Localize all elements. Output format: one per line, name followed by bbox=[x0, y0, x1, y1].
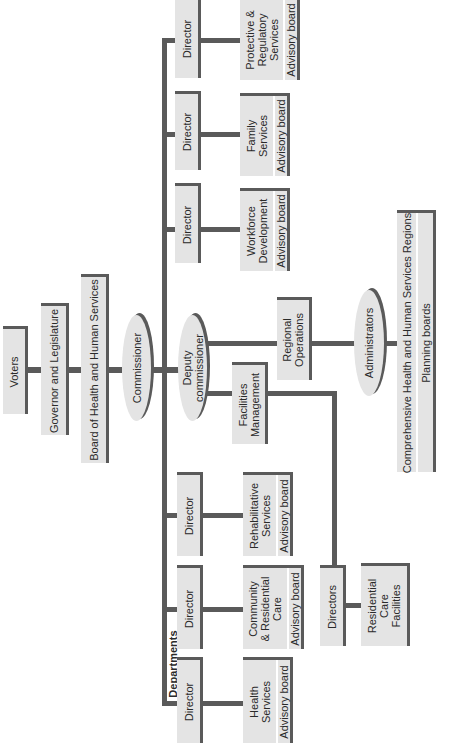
regions-label: Comprehensive Health and Human Services … bbox=[401, 212, 413, 472]
connector-dir-dept-4 bbox=[202, 513, 243, 518]
dept-workforce: WorkforceDevelopment Advisory board bbox=[240, 188, 290, 271]
connector-dir-dept-3 bbox=[200, 227, 240, 232]
governor-label: Governor and Legislature bbox=[48, 308, 60, 432]
planning-boards-strip: Planning boards bbox=[416, 213, 433, 472]
deputy-label: Deputy commissioner bbox=[181, 332, 205, 404]
connector-directors-residential bbox=[344, 603, 362, 608]
board-label: Board of Health and Human Services bbox=[88, 279, 100, 461]
governor-box: Governor and Legislature bbox=[41, 303, 69, 435]
connector-facilities-right bbox=[267, 391, 337, 396]
director-label: Director bbox=[181, 113, 193, 152]
connector-spine-dir-2 bbox=[162, 132, 176, 137]
directors-label: Directors bbox=[326, 585, 338, 629]
commissioner-ellipse: Commissioner bbox=[122, 315, 151, 421]
director-label: Director bbox=[183, 682, 195, 721]
director-health: Director bbox=[177, 657, 203, 743]
connector-facilities-down bbox=[332, 391, 337, 566]
advisory-board-strip: Advisory board bbox=[276, 660, 290, 743]
connector-deputy-facilities bbox=[205, 391, 233, 396]
director-community: Director bbox=[177, 565, 203, 649]
connector-regional-admin bbox=[311, 341, 355, 346]
regional-operations-box: RegionalOperations bbox=[277, 297, 312, 380]
residential-care-box: ResidentialCareFacilities bbox=[361, 563, 410, 646]
advisory-board-strip: Advisory board bbox=[273, 191, 287, 271]
connector-spine-dir-3 bbox=[162, 227, 176, 232]
dept-health: HealthServices Advisory board bbox=[243, 657, 293, 743]
connector-voters-governor bbox=[27, 367, 41, 373]
connector-dir-dept-5 bbox=[202, 607, 243, 612]
director-label: Director bbox=[183, 589, 195, 628]
departments-spine bbox=[162, 38, 167, 706]
advisory-board-strip: Advisory board bbox=[273, 96, 287, 176]
director-label: Director bbox=[181, 20, 193, 59]
facilities-management-box: FacilitiesManagement bbox=[232, 362, 268, 444]
connector-governor-board bbox=[68, 367, 82, 373]
board-box: Board of Health and Human Services bbox=[81, 274, 109, 463]
connector-spine-dir-5 bbox=[162, 607, 178, 612]
dept-name: WorkforceDevelopment bbox=[245, 199, 269, 264]
advisory-board-strip: Advisory board bbox=[287, 568, 301, 649]
connector-spine-dir-1 bbox=[162, 38, 176, 43]
advisory-board-strip: Advisory board bbox=[276, 475, 290, 556]
connector-dir-dept-2 bbox=[200, 132, 240, 137]
connector-spine-dir-6 bbox=[162, 701, 178, 706]
connector-dir-dept-1 bbox=[200, 38, 240, 43]
administrators-label: Administrators bbox=[363, 308, 375, 378]
dept-community: Community& ResidentialCare Advisory boar… bbox=[243, 565, 304, 649]
advisory-board-strip: Advisory board bbox=[283, 0, 297, 80]
dept-name: HealthServices bbox=[248, 680, 272, 722]
commissioner-label: Commissioner bbox=[131, 333, 143, 403]
directors-box: Directors bbox=[320, 565, 346, 646]
connector-deputy-regional bbox=[205, 341, 278, 346]
director-label: Director bbox=[181, 205, 193, 244]
director-protective: Director bbox=[175, 0, 201, 78]
dept-name: Protective &RegulatoryServices bbox=[244, 10, 280, 69]
voters-box: Voters bbox=[3, 326, 28, 414]
connector-dir-dept-6 bbox=[202, 701, 243, 706]
connector-spine-dir-4 bbox=[162, 513, 178, 518]
dept-name: RehabilitativeServices bbox=[248, 482, 272, 548]
director-rehabilitative: Director bbox=[177, 472, 203, 556]
connector-board-commissioner bbox=[108, 367, 122, 373]
dept-name: Community& ResidentialCare bbox=[247, 576, 283, 641]
dept-name: FamilyServices bbox=[245, 115, 269, 157]
director-family: Director bbox=[175, 91, 201, 170]
deputy-ellipse: Deputy commissioner bbox=[178, 315, 207, 421]
director-workforce: Director bbox=[175, 183, 201, 263]
administrators-ellipse: Administrators bbox=[354, 290, 384, 396]
dept-rehabilitative: RehabilitativeServices Advisory board bbox=[243, 472, 293, 556]
regions-box: Comprehensive Health and Human Services … bbox=[397, 210, 436, 472]
voters-label: Voters bbox=[8, 356, 20, 387]
dept-family: FamilyServices Advisory board bbox=[240, 93, 290, 176]
director-label: Director bbox=[183, 496, 195, 535]
dept-protective: Protective &RegulatoryServices Advisory … bbox=[240, 0, 300, 80]
connector-admin-regions bbox=[383, 341, 398, 346]
